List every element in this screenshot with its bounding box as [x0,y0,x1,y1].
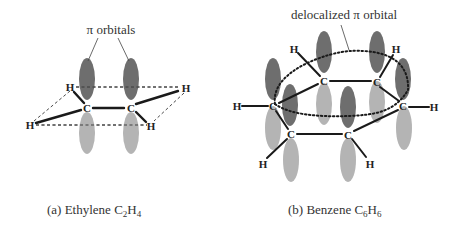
atom-carbon: C [344,129,352,141]
annotation-leader [118,38,129,61]
atom-hydrogen: H [430,101,439,113]
atom-hydrogen: H [233,100,242,112]
annotation-leader [341,25,349,50]
pi-orbital-upper-lobe [395,58,411,100]
pi-orbital-upper-lobe [316,31,332,73]
pi-orbital-upper-lobe [265,58,281,100]
atom-carbon: C [269,100,277,112]
atom-carbon: C [373,76,381,88]
ethylene-diagram: C C H H H H π orbitals (a) Ethylene C2H4 [26,22,191,219]
pi-orbital-lower-lobe [283,138,299,182]
pi-orbital-upper-lobe [79,58,95,100]
figure: C C H H H H π orbitals (a) Ethylene C2H4 [0,0,452,232]
atom-carbon: C [320,75,328,87]
atom-carbon: C [83,102,91,114]
pi-orbital-lower-lobe [316,83,332,125]
atom-carbon: C [399,100,407,112]
pi-orbital-lower-lobe [396,106,412,150]
benzene-diagram: C C C C C C H H H H H H delocalized π or… [233,7,439,219]
atom-hydrogen: H [366,158,375,170]
bonds [36,91,178,123]
atom-hydrogen: H [26,119,35,131]
pi-orbital-upper-lobe [282,84,298,126]
atom-hydrogen: H [182,82,191,94]
atom-hydrogen: H [259,158,268,170]
annotation-leader [88,38,98,61]
pi-orbital-lower-lobe [340,138,356,182]
atom-carbon: C [127,102,135,114]
atom-hydrogen: H [290,43,299,55]
benzene-caption: (b) Benzene C6H6 [288,202,382,219]
pi-orbitals-annotation: π orbitals [87,22,136,37]
delocalized-orbital-annotation: delocalized π orbital [291,7,398,22]
ethylene-caption: (a) Ethylene C2H4 [47,202,142,219]
atom-hydrogen: H [147,120,156,132]
atom-hydrogen: H [66,81,75,93]
pi-orbital-lower-lobe [265,106,281,150]
pi-orbital-upper-lobe [123,58,139,100]
pi-orbital-upper-lobe [340,86,356,128]
pi-orbital-lower-lobe [123,112,139,154]
molecular-plane [34,87,184,125]
atom-hydrogen: H [392,43,401,55]
atom-carbon: C [287,128,295,140]
pi-orbital-lower-lobe [79,112,95,154]
